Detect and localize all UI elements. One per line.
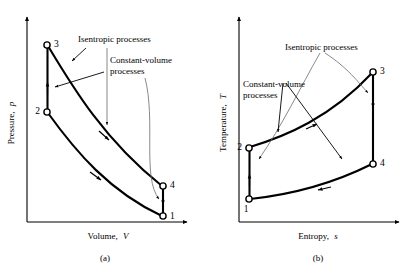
panel-a: 3 2 4 1 Isentropic processes Constant-vo…	[6, 17, 187, 263]
panel-b: 2 1 3 4 Isentropic processes Constant-vo…	[218, 17, 399, 263]
panel-b-process-1-4-constant-volume	[250, 164, 372, 199]
panel-b-y-axis-label: Temperature, T	[218, 93, 228, 152]
panel-a-direction-arrows	[48, 82, 164, 207]
panel-a-y-axis-label-text: Pressure,	[6, 112, 16, 145]
panel-a-x-axis-label-text: Volume,	[88, 231, 118, 241]
panel-b-point-label-4: 4	[380, 158, 385, 168]
svg-text:Pressure, p: Pressure, p	[6, 101, 16, 144]
panel-b-leader-isentropic-right	[325, 53, 368, 93]
panel-b-point-1	[246, 196, 252, 202]
panel-b-arrow-4-to-1	[318, 187, 331, 190]
panel-a-y-axis-label-symbol: p	[6, 101, 16, 107]
panel-a-caption: (a)	[100, 253, 110, 263]
panel-a-annotation-isentropic: Isentropic processes	[78, 34, 151, 44]
panel-a-leader-isentropic-upper	[72, 48, 86, 61]
panel-b-point-label-2: 2	[237, 142, 242, 152]
panel-a-point-label-2: 2	[35, 106, 40, 116]
panel-b-point-4	[370, 161, 376, 167]
panel-b-point-label-1: 1	[244, 204, 249, 214]
panel-b-leader-isentropic-left	[259, 53, 320, 159]
panel-a-point-3	[44, 42, 50, 48]
panel-b-x-axis-label-symbol: s	[334, 231, 338, 241]
panel-a-annotation-constant-volume-line1: Constant-volume	[110, 55, 172, 65]
thermodynamic-diagrams-svg: 3 2 4 1 Isentropic processes Constant-vo…	[0, 0, 413, 275]
panel-a-point-label-1: 1	[170, 211, 175, 221]
panel-a-process-3-4-isentropic	[48, 46, 162, 186]
panel-b-x-axis-label: Entropy, s	[298, 231, 338, 241]
panel-a-annotation-constant-volume-line2: processes	[110, 66, 145, 76]
panel-a-process-curves	[48, 46, 164, 216]
figure-root: 3 2 4 1 Isentropic processes Constant-vo…	[0, 0, 413, 275]
panel-a-y-axis-label: Pressure, p	[6, 101, 16, 144]
panel-a-point-4	[160, 183, 166, 189]
panel-b-annotation-isentropic: Isentropic processes	[285, 42, 358, 52]
panel-a-point-label-3: 3	[54, 39, 59, 49]
panel-a-point-label-4: 4	[170, 180, 175, 190]
panel-b-leader-lines	[259, 53, 368, 159]
panel-a-point-1	[160, 213, 166, 219]
svg-text:Temperature, T: Temperature, T	[218, 93, 228, 152]
panel-b-y-axis-label-text: Temperature,	[218, 104, 228, 152]
panel-b-annotation-constant-volume-line1: Constant-volume	[243, 79, 305, 89]
panel-b-x-axis-label-text: Entropy,	[298, 231, 329, 241]
panel-b-point-3	[370, 69, 376, 75]
panel-b-point-label-3: 3	[380, 66, 385, 76]
panel-b-caption: (b)	[313, 253, 324, 263]
panel-b-arrow-2-to-3	[306, 124, 317, 129]
panel-b-annotation-constant-volume-line2: processes	[243, 90, 278, 100]
panel-a-x-axis-label: Volume, V	[88, 231, 130, 241]
panel-a-x-axis-label-symbol: V	[123, 231, 130, 241]
panel-b-point-2	[246, 145, 252, 151]
panel-b-y-axis-label-symbol: T	[218, 93, 228, 99]
panel-a-point-2	[44, 109, 50, 115]
panel-b-leader-constvol-lower	[286, 83, 342, 159]
panel-a-leader-constvol-left	[55, 72, 104, 87]
